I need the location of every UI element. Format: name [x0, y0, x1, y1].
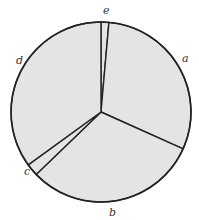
label-e: e [103, 4, 110, 17]
label-d: d [16, 54, 23, 67]
label-b: b [109, 206, 116, 219]
pie-chart: e a b c d [0, 0, 199, 220]
pie-slices [11, 22, 191, 202]
label-a: a [182, 52, 189, 65]
label-c: c [24, 165, 30, 178]
